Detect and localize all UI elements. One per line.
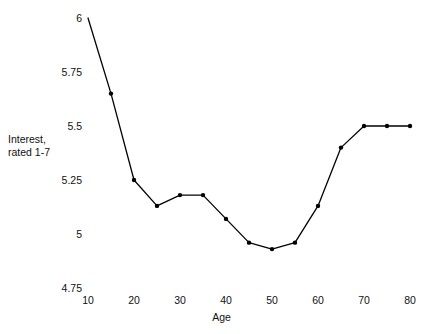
data-point-marker bbox=[362, 124, 366, 128]
data-point-marker bbox=[293, 240, 297, 244]
data-point-marker bbox=[385, 124, 389, 128]
data-point-marker bbox=[155, 204, 159, 208]
data-point-marker bbox=[132, 178, 136, 182]
data-point-marker bbox=[201, 193, 205, 197]
plot-area bbox=[0, 0, 443, 334]
data-point-marker bbox=[408, 124, 412, 128]
data-line bbox=[88, 18, 410, 249]
data-point-marker bbox=[109, 91, 113, 95]
data-point-marker bbox=[270, 247, 274, 251]
data-point-marker bbox=[247, 240, 251, 244]
data-point-marker bbox=[339, 145, 343, 149]
line-chart: Interest, rated 1-7 4.7555.255.55.756 10… bbox=[0, 0, 443, 334]
data-point-marker bbox=[178, 193, 182, 197]
data-point-marker bbox=[224, 217, 228, 221]
data-point-marker bbox=[316, 204, 320, 208]
